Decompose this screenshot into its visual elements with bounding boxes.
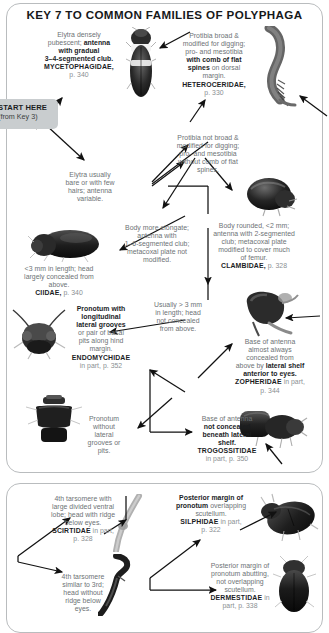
node-pronotum-without: Pronotum without lateral grooves or pits… (76, 415, 132, 455)
node-text-bold: lateral grooves (76, 321, 125, 328)
node-text: or pair of basal (78, 329, 124, 336)
node-text: lobe; head with ridge (51, 511, 115, 518)
node-text: 4th tarsomere with (54, 495, 111, 502)
node-text: of femur. (241, 254, 268, 261)
family-name: HETEROCERIDAE, (182, 81, 246, 88)
node-text: Pronotum (89, 415, 119, 422)
node-text: pits. (98, 447, 111, 454)
node-text: scutellum. (224, 586, 255, 593)
node-text-bold: shelf. (218, 439, 236, 446)
node-text: Elytra densely (57, 31, 101, 38)
family-name: SCIRTIDAE (52, 527, 91, 534)
node-text: eyes. (75, 605, 92, 612)
node-silphidae: Posterior margin of pronotum overlapping… (164, 494, 258, 534)
node-text: Protibia not broad & (177, 134, 238, 141)
node-tarsomere-similar: 4th tarsomere similar to 3rd; head witho… (48, 573, 118, 613)
page-ref: p. 340 (63, 289, 82, 296)
zopheridae-head-photo (239, 289, 301, 337)
node-text: overlapping (208, 502, 246, 509)
start-here-sublabel: (from Key 3) (0, 112, 53, 121)
node-text: not concealed (156, 317, 199, 324)
node-text: <3 mm in length; head (25, 265, 94, 272)
node-text: margin. (89, 345, 112, 352)
node-text: antenna with 2-segmented (213, 230, 295, 237)
node-endomychidae: Pronotum with longitudinal lateral groov… (54, 305, 148, 370)
node-text-bold: anterior to eyes. (243, 370, 297, 377)
pronotum-without-grooves-photo (26, 394, 82, 454)
node-text-bold: 3–4-segmented club. (45, 55, 114, 62)
node-text: antenna with (137, 232, 176, 239)
page-ref: in part, (218, 518, 241, 525)
node-zopheridae: Base of antenna almost always concealed … (226, 338, 314, 395)
page-title: KEY 7 TO COMMON FAMILIES OF POLYPHAGA (0, 8, 329, 21)
node-text: from above. (160, 325, 197, 332)
node-text: Body rounded, <2 mm; (219, 222, 289, 229)
node-text: pronotum abutting, (211, 570, 269, 577)
node-text: above by (236, 362, 266, 369)
node-text-bold: Pronotum with (77, 305, 126, 312)
node-text-bold: longitudinal (81, 313, 120, 320)
page-ref: in part, p. 352 (80, 362, 122, 369)
node-elytra-bare: Elytra usually bare or with few hairs; a… (48, 171, 132, 203)
page-ref: p. 330 (204, 89, 223, 96)
node-text-bold: not concealed (204, 423, 251, 430)
node-text: on dorsal (210, 64, 240, 71)
node-text: in length; head (155, 309, 201, 316)
node-text: not overlapping (216, 578, 263, 585)
family-name: TROGOSSITIDAE (198, 447, 257, 454)
mycetophagidae-beetle-photo (126, 27, 156, 99)
node-text: Usually > 3 mm (154, 301, 202, 308)
node-text: pits along hind (79, 337, 124, 344)
node-text: variable. (77, 195, 103, 202)
node-text: Posterior margin of (211, 562, 270, 569)
node-heteroceridae: Protibia broad & modified for digging; p… (167, 32, 261, 97)
page-ref: in (262, 594, 269, 601)
family-name: ZOPHERIDAE (235, 378, 282, 385)
start-here-label: START HERE (0, 103, 53, 112)
family-name: SILPHIDAE (180, 518, 218, 525)
family-name: DERMESTIDAE (210, 594, 262, 601)
page-ref: part, p. 338 (222, 602, 257, 609)
node-text-bold: beneath lateral (203, 431, 252, 438)
node-text: hairs; antenna (68, 187, 112, 194)
node-clambidae: Body rounded, <2 mm; antenna with 2-segm… (199, 222, 309, 271)
node-text: bare or with few (66, 179, 115, 186)
node-text-bold: with comb of flat (186, 56, 241, 63)
node-text: grooves or (88, 439, 121, 446)
family-name: CLAMBIDAE, (221, 262, 266, 269)
node-text: modified to cover much (218, 246, 290, 253)
start-here-tag[interactable]: START HERE (from Key 3) (0, 99, 58, 129)
page-ref: p. 340 (69, 71, 88, 78)
node-text: concealed from (246, 354, 293, 361)
node-text: scutellum. (195, 510, 226, 517)
node-usually-3mm: Usually > 3 mm in length; head not conce… (141, 301, 215, 333)
node-text: 4th tarsomere (62, 573, 105, 580)
node-text: pubescent; (48, 39, 84, 46)
node-text: below eyes. (65, 519, 102, 526)
page-ref: in part, p. 350 (206, 455, 248, 462)
page-ref: p. 344 (260, 387, 279, 394)
node-text: Base of antenna (202, 415, 253, 422)
node-text: ridge below (65, 597, 100, 604)
node-text: metacoxal plate not (127, 248, 187, 255)
node-text: without comb of flat (178, 158, 238, 165)
node-text: Base of antenna (245, 338, 296, 345)
node-text: modified. (143, 256, 171, 263)
node-protibia-not-broad: Protibia not broad & modified for diggin… (158, 134, 258, 174)
page-ref: in part, (282, 378, 305, 385)
node-text: pro- and mesotibia (179, 150, 236, 157)
node-text: almost always (248, 346, 292, 353)
node-text-bold: antenna (84, 39, 111, 46)
node-trogossitidae: Base of antenna not concealed beneath la… (186, 415, 268, 464)
family-name: MYCETOPHAGIDAE, (44, 63, 114, 70)
node-body-elongate: Body more elongate; antenna with 1–6-seg… (108, 224, 206, 264)
page-ref: p. 322 (201, 526, 220, 533)
node-mycetophagidae: Elytra densely pubescent; antenna with g… (30, 31, 128, 80)
node-ciidae: <3 mm in length; head largely concealed … (6, 265, 112, 297)
node-text: lateral (95, 431, 114, 438)
node-text: Body more elongate; (125, 224, 189, 231)
node-text: large divided ventral (52, 503, 114, 510)
page-ref: p. 328 (268, 262, 287, 269)
clambidae-beetle-photo (245, 175, 299, 217)
